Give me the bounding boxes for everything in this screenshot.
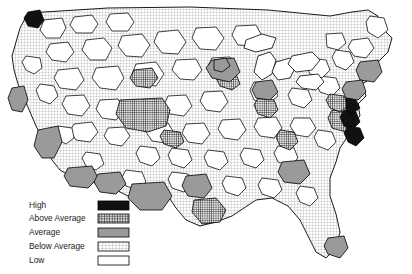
us-choropleth-map: High Above Average Average Below Average… <box>0 0 412 274</box>
legend-swatch-above-average <box>98 214 129 223</box>
legend-label-above-average: Above Average <box>29 213 86 223</box>
legend-label-high: High <box>29 200 47 210</box>
legend-swatch-average <box>98 228 129 237</box>
legend-label-average: Average <box>29 227 60 237</box>
legend-swatch-low <box>98 256 129 265</box>
legend-label-low: Low <box>29 255 45 265</box>
map-svg: High Above Average Average Below Average… <box>0 0 412 274</box>
legend-swatch-below-average <box>98 242 129 251</box>
legend-label-below-average: Below Average <box>29 241 85 251</box>
legend-swatch-high <box>98 201 129 210</box>
